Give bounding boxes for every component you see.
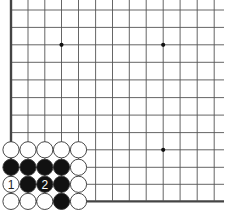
white-stone-icon	[53, 142, 69, 158]
white-stone	[70, 193, 86, 209]
black-stone-icon	[53, 176, 69, 192]
white-stone	[20, 142, 36, 158]
star-point-icon	[161, 43, 165, 47]
white-stone-icon	[37, 142, 53, 158]
white-stone: 1	[3, 176, 19, 192]
stones: 12	[3, 142, 87, 210]
black-stone-icon	[53, 159, 69, 175]
star-point-icon	[161, 148, 165, 152]
black-stone	[20, 176, 36, 192]
white-stone	[70, 176, 86, 192]
black-stone	[37, 159, 53, 175]
star-point-icon	[59, 43, 63, 47]
go-board-diagram: 12	[0, 0, 231, 217]
white-stone-icon	[20, 142, 36, 158]
black-stone	[53, 193, 69, 209]
white-stone-icon	[70, 193, 86, 209]
move-number-label: 2	[41, 178, 48, 192]
white-stone	[70, 159, 86, 175]
move-number-label: 1	[8, 178, 15, 192]
black-stone-icon	[3, 159, 19, 175]
white-stone	[37, 142, 53, 158]
white-stone-icon	[70, 159, 86, 175]
black-stone-icon	[20, 176, 36, 192]
white-stone	[70, 142, 86, 158]
white-stone-icon	[70, 142, 86, 158]
white-stone-icon	[3, 193, 19, 209]
black-stone-icon	[53, 193, 69, 209]
black-stone	[3, 159, 19, 175]
black-stone-icon	[37, 159, 53, 175]
black-stone	[53, 159, 69, 175]
white-stone	[53, 142, 69, 158]
black-stone: 2	[37, 176, 53, 192]
white-stone-icon	[20, 193, 36, 209]
white-stone-icon	[3, 142, 19, 158]
white-stone	[3, 193, 19, 209]
white-stone	[20, 193, 36, 209]
black-stone	[20, 159, 36, 175]
white-stone-icon	[37, 193, 53, 209]
black-stone-icon	[20, 159, 36, 175]
white-stone	[3, 142, 19, 158]
black-stone	[53, 176, 69, 192]
white-stone-icon	[70, 176, 86, 192]
white-stone	[37, 193, 53, 209]
